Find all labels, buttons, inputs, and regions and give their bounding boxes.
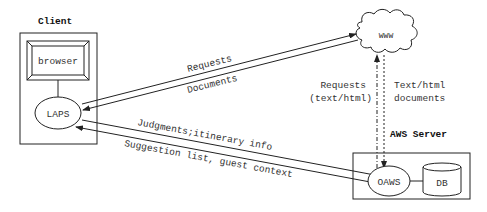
www-docs-label-2: documents bbox=[394, 93, 445, 104]
www-label: WWW bbox=[379, 31, 394, 40]
oaws-requests-label-1: Requests bbox=[320, 80, 366, 91]
architecture-diagram: Client browser LAPS WWW Requests Documen… bbox=[0, 0, 487, 212]
www-docs-label-1: Text/html bbox=[394, 80, 446, 91]
browser-label: browser bbox=[38, 56, 78, 67]
db-label: DB bbox=[436, 178, 448, 189]
client-title: Client bbox=[38, 16, 72, 27]
documents-label: Documents bbox=[186, 73, 238, 96]
oaws-label: OAWS bbox=[378, 177, 401, 188]
oaws-requests-label-2: (text/html) bbox=[309, 93, 372, 104]
server-title: AWS Server bbox=[390, 129, 447, 140]
laps-label: LAPS bbox=[47, 109, 70, 120]
